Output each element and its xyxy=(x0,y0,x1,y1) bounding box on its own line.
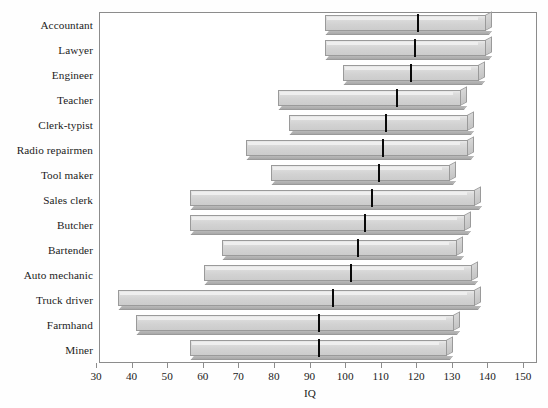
median-marker xyxy=(414,39,416,57)
median-marker xyxy=(332,289,334,307)
median-marker xyxy=(410,64,412,82)
bars-layer xyxy=(100,13,538,364)
x-tick-mark xyxy=(167,363,168,368)
x-tick-label: 110 xyxy=(372,370,388,382)
x-tick-mark xyxy=(132,363,133,368)
bar-top-bevel xyxy=(138,317,446,320)
bar-top-bevel xyxy=(206,267,464,270)
bar-shadow xyxy=(119,306,481,310)
bar-end-cap xyxy=(449,161,456,181)
bar-face xyxy=(278,90,461,106)
x-tick-label: 60 xyxy=(197,370,208,382)
category-label: Miner xyxy=(0,344,93,356)
bar-end-cap xyxy=(456,236,463,256)
bar-top-bevel xyxy=(345,67,471,70)
bar-shadow xyxy=(325,31,492,35)
x-tick-mark xyxy=(381,363,382,368)
category-label: Auto mechanic xyxy=(0,269,93,281)
range-bar xyxy=(190,190,482,212)
range-bar xyxy=(136,315,460,337)
range-bar xyxy=(325,15,492,37)
x-axis-title: IQ xyxy=(304,387,316,399)
bar-end-cap xyxy=(474,186,481,206)
bar-shadow xyxy=(343,81,485,85)
category-label: Sales clerk xyxy=(0,194,93,206)
bar-shadow xyxy=(290,131,474,135)
chart-figure: AccountantLawyerEngineerTeacherClerk-typ… xyxy=(0,0,548,408)
bar-shadow xyxy=(190,356,453,360)
category-label: Engineer xyxy=(0,69,93,81)
bar-end-cap xyxy=(467,111,474,131)
bar-end-cap xyxy=(485,36,492,56)
category-label: Accountant xyxy=(0,19,93,31)
bar-top-bevel xyxy=(192,342,439,345)
x-tick-mark xyxy=(523,363,524,368)
bar-shadow xyxy=(137,331,460,335)
bar-shadow xyxy=(325,56,492,60)
bar-end-cap xyxy=(471,262,478,282)
x-tick-mark xyxy=(238,363,239,368)
median-marker xyxy=(417,14,419,32)
range-bar xyxy=(222,240,464,262)
bar-end-cap xyxy=(446,337,453,357)
bar-end-cap xyxy=(464,211,471,231)
bar-face xyxy=(325,15,486,31)
range-bar xyxy=(204,265,478,287)
bar-end-cap xyxy=(478,61,485,81)
x-tick-mark xyxy=(487,363,488,368)
category-axis: AccountantLawyerEngineerTeacherClerk-typ… xyxy=(0,12,93,363)
median-marker xyxy=(385,114,387,132)
x-tick-label: 70 xyxy=(233,370,244,382)
bar-end-cap xyxy=(467,136,474,156)
x-tick-mark xyxy=(203,363,204,368)
bar-face xyxy=(204,265,472,281)
bar-shadow xyxy=(222,256,463,260)
x-tick-mark xyxy=(310,363,311,368)
bar-shadow xyxy=(190,206,481,210)
range-bar xyxy=(118,290,481,312)
category-label: Butcher xyxy=(0,219,93,231)
bar-top-bevel xyxy=(291,117,460,120)
bar-shadow xyxy=(190,231,470,235)
x-tick-label: 40 xyxy=(126,370,137,382)
range-bar xyxy=(246,140,474,162)
bar-face xyxy=(325,40,486,56)
bar-face xyxy=(190,190,476,206)
category-label: Farmhand xyxy=(0,319,93,331)
median-marker xyxy=(378,164,380,182)
median-marker xyxy=(396,89,398,107)
bar-face xyxy=(289,115,468,131)
bar-top-bevel xyxy=(120,292,467,295)
bar-face xyxy=(246,140,468,156)
category-label: Lawyer xyxy=(0,44,93,56)
bar-top-bevel xyxy=(273,167,442,170)
x-tick-mark xyxy=(452,363,453,368)
median-marker xyxy=(357,239,359,257)
bar-shadow xyxy=(272,181,456,185)
range-bar xyxy=(325,40,492,62)
bar-shadow xyxy=(247,156,474,160)
bar-face xyxy=(190,215,465,231)
x-tick-label: 30 xyxy=(90,370,101,382)
range-bar xyxy=(343,65,485,87)
x-tick-label: 130 xyxy=(443,370,460,382)
value-axis: IQ 30405060708090100110120130140150 xyxy=(0,363,548,408)
median-marker xyxy=(382,139,384,157)
plot-area xyxy=(99,12,537,363)
median-marker xyxy=(364,214,366,232)
bar-top-bevel xyxy=(248,142,460,145)
bar-face xyxy=(222,240,458,256)
x-tick-label: 90 xyxy=(304,370,315,382)
bar-top-bevel xyxy=(192,217,457,220)
x-tick-mark xyxy=(416,363,417,368)
median-marker xyxy=(371,189,373,207)
bar-top-bevel xyxy=(224,242,450,245)
bar-top-bevel xyxy=(327,17,478,20)
category-label: Bartender xyxy=(0,244,93,256)
range-bar xyxy=(271,165,456,187)
bar-shadow xyxy=(279,106,467,110)
range-bar xyxy=(289,115,474,137)
bar-end-cap xyxy=(460,86,467,106)
bar-top-bevel xyxy=(192,192,468,195)
category-label: Radio repairmen xyxy=(0,144,93,156)
